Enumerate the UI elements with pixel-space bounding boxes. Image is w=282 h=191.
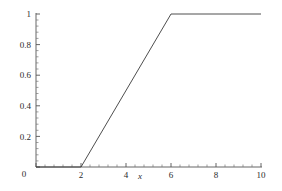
x-tick-label-2: 2 bbox=[79, 170, 84, 180]
y-tick-label-0.2: 0.2 bbox=[20, 132, 31, 142]
chart-figure: 0 2 4 6 8 10 0.2 0.4 0.6 0.8 1 x bbox=[0, 0, 282, 191]
x-tick-label-6: 6 bbox=[169, 170, 174, 180]
y-tick-label-0.8: 0.8 bbox=[20, 40, 32, 50]
x-axis-title: x bbox=[137, 171, 142, 181]
y-tick-label-1: 1 bbox=[27, 9, 32, 19]
plot-background bbox=[0, 0, 282, 191]
ramp-function-plot: 0 2 4 6 8 10 0.2 0.4 0.6 0.8 1 x bbox=[0, 0, 282, 191]
x-tick-label-0: 0 bbox=[22, 169, 27, 179]
x-tick-label-10: 10 bbox=[257, 170, 267, 180]
y-tick-label-0.4: 0.4 bbox=[20, 101, 32, 111]
y-tick-label-0.6: 0.6 bbox=[20, 70, 32, 80]
x-tick-label-8: 8 bbox=[214, 170, 219, 180]
x-tick-label-4: 4 bbox=[124, 170, 129, 180]
